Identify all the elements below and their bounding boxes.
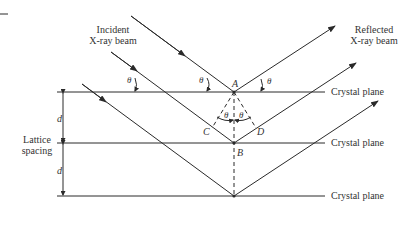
plane-label-3: Crystal plane (331, 190, 384, 201)
incident-beam-label: Incident X-ray beam (76, 24, 150, 46)
incident-line1: Incident (76, 24, 150, 35)
d-upper: d (57, 113, 62, 124)
reflected-ray-3 (234, 101, 378, 196)
theta-4: θ (224, 110, 228, 121)
lattice-line1: Lattice (18, 134, 56, 145)
reflected-beam-label: Reflected X-ray beam (340, 24, 408, 46)
reflected-line2: X-ray beam (340, 35, 408, 46)
reflected-line1: Reflected (340, 24, 408, 35)
point-d: D (257, 126, 264, 137)
point-c: C (203, 126, 210, 137)
theta-2: θ (199, 75, 203, 86)
incident-line2: X-ray beam (76, 35, 150, 46)
point-b: B (237, 147, 243, 158)
theta-5: θ (239, 110, 243, 121)
reflected-ray-1 (234, 26, 335, 92)
theta-3: θ (267, 76, 271, 87)
point-a: A (232, 78, 238, 89)
lattice-spacing-label: Lattice spacing (18, 134, 56, 156)
theta-1: θ (127, 75, 131, 86)
plane-label-1: Crystal plane (331, 86, 384, 97)
lattice-line2: spacing (18, 145, 56, 156)
reflected-ray-2 (234, 63, 356, 143)
perp-ac (212, 92, 234, 128)
plane-label-2: Crystal plane (331, 137, 384, 148)
d-lower: d (57, 165, 62, 176)
perp-ad (234, 92, 256, 128)
